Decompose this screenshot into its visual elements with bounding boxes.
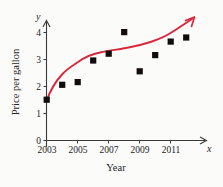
y-axis [43, 21, 50, 148]
x-tick-label-2005: 2005 [69, 145, 88, 155]
data-point-2009 [137, 68, 143, 74]
x-axis-title: Year [106, 162, 126, 173]
data-point-2003 [44, 97, 50, 103]
x-tick-label-2003: 2003 [38, 145, 57, 155]
y-axis-title: Price per gallon [10, 48, 21, 115]
y-tick-label-1: 1 [36, 109, 41, 119]
data-point-2006 [90, 57, 96, 63]
y-axis-variable-label: y [35, 11, 41, 22]
data-point-2010 [152, 52, 158, 58]
data-point-2012 [183, 34, 189, 40]
data-point-2005 [75, 79, 81, 85]
x-tick-label-2007: 2007 [100, 145, 119, 155]
data-point-2011 [168, 39, 174, 45]
y-tick-label-4: 4 [36, 28, 41, 38]
data-point-2008 [121, 29, 127, 35]
x-axis-variable-label: x [206, 143, 212, 154]
chart-canvas: 0 1 2 3 4 2003 2005 2007 2009 2011 y x Y… [0, 0, 223, 187]
y-tick-label-3: 3 [36, 55, 41, 65]
scatter-plot-figure: 0 1 2 3 4 2003 2005 2007 2009 2011 y x Y… [0, 0, 223, 187]
x-tick-label-2009: 2009 [131, 145, 150, 155]
x-tick-label-2011: 2011 [162, 145, 181, 155]
x-axis [47, 137, 207, 144]
y-tick-label-2: 2 [36, 82, 41, 92]
data-point-2004 [59, 82, 65, 88]
data-point-markers [44, 29, 190, 103]
trend-curve-path [47, 19, 192, 100]
data-point-2007 [106, 51, 112, 57]
